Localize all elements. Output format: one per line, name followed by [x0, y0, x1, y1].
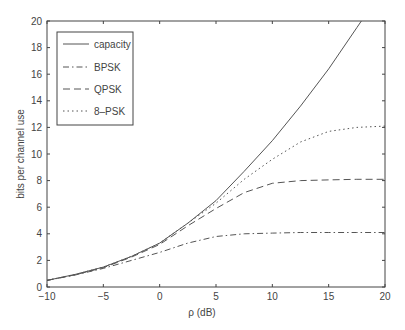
x-tick-label: 15 [323, 291, 335, 302]
legend-label: 8–PSK [94, 106, 125, 117]
legend-label: QPSK [94, 84, 122, 95]
legend: capacityBPSKQPSK8–PSK [57, 32, 133, 125]
y-tick-label: 12 [31, 122, 43, 133]
y-tick-label: 2 [36, 255, 42, 266]
series-bpsk [47, 233, 385, 281]
series-8-psk [47, 126, 385, 280]
legend-label: BPSK [94, 62, 121, 73]
x-tick-label: 5 [213, 291, 219, 302]
x-tick-label: 10 [267, 291, 279, 302]
y-tick-label: 16 [31, 69, 43, 80]
legend-label: capacity [94, 39, 131, 50]
y-tick-label: 6 [36, 202, 42, 213]
y-tick-label: 8 [36, 175, 42, 186]
x-tick-label: 0 [157, 291, 163, 302]
y-tick-label: 14 [31, 95, 43, 106]
x-tick-label: −5 [98, 291, 110, 302]
y-tick-label: 4 [36, 228, 42, 239]
y-tick-label: 0 [36, 282, 42, 293]
series-qpsk [47, 179, 385, 280]
y-axis-label: bits per channel use [15, 109, 26, 199]
y-tick-label: 20 [31, 16, 43, 27]
line-chart: −10−50510152002468101214161820 capacityB… [0, 0, 405, 330]
y-tick-label: 18 [31, 42, 43, 53]
x-tick-label: −10 [39, 291, 56, 302]
x-tick-label: 20 [379, 291, 391, 302]
y-tick-label: 10 [31, 149, 43, 160]
x-axis-label: ρ (dB) [188, 307, 215, 318]
